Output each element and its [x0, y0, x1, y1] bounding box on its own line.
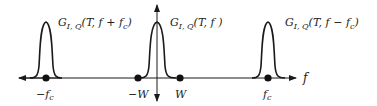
tick-label-neg-fc: −fc: [36, 88, 54, 102]
spectrum-diagram: GI, Q(T, f + fc) GI, Q(T, f ) GI, Q(T, f…: [0, 0, 377, 106]
label-pulse-right: GI, Q(T, f − fc): [285, 16, 359, 31]
dot-neg-w: [134, 74, 141, 81]
label-pulse-center: GI, Q(T, f ): [170, 16, 222, 31]
axis-label-f: f: [302, 71, 310, 85]
tick-label-pos-fc: fc: [262, 88, 272, 102]
tick-label-pos-w: W: [175, 88, 188, 101]
pulse-left: [30, 22, 62, 78]
dot-neg-fc: [42, 74, 49, 81]
dot-pos-fc: [264, 74, 271, 81]
pulse-right: [252, 22, 285, 78]
label-pulse-left: GI, Q(T, f + fc): [58, 16, 132, 31]
dot-pos-w: [176, 74, 183, 81]
tick-label-neg-w: −W: [128, 88, 150, 101]
